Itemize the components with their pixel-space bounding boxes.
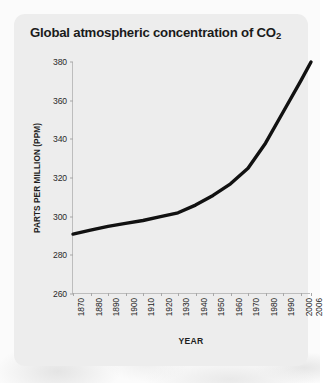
series-polyline [73, 62, 311, 234]
x-tick-mark [248, 293, 249, 296]
x-tick-mark [91, 293, 92, 296]
x-tick-mark [143, 293, 144, 296]
x-tick-label: 1930 [181, 298, 191, 316]
x-tick-mark [266, 293, 267, 296]
chart-card: Global atmospheric concentration of CO2 … [14, 14, 308, 366]
y-tick-mark [70, 178, 73, 179]
x-tick-mark [301, 293, 302, 296]
x-tick-mark [196, 293, 197, 296]
x-tick-label: 1960 [234, 298, 244, 316]
plot-area: 2602803003203403603801870188018901900191… [72, 62, 310, 294]
x-tick-label: 1910 [146, 298, 156, 316]
x-tick-mark [231, 293, 232, 296]
y-tick-label: 320 [53, 173, 67, 183]
x-tick-label: 1880 [94, 298, 104, 316]
y-tick-label: 280 [53, 250, 67, 260]
x-tick-mark [311, 293, 312, 296]
x-tick-label: 1900 [129, 298, 139, 316]
x-tick-label: 1990 [286, 298, 296, 316]
y-tick-label: 340 [53, 134, 67, 144]
x-tick-label: 1970 [251, 298, 261, 316]
y-tick-mark [70, 255, 73, 256]
x-tick-label: 2000 [304, 298, 314, 316]
series-line-chart [73, 62, 311, 294]
x-tick-label: 1950 [216, 298, 226, 316]
x-tick-mark [126, 293, 127, 296]
y-tick-label: 380 [53, 57, 67, 67]
x-tick-label: 1940 [199, 298, 209, 316]
y-tick-mark [70, 216, 73, 217]
y-tick-mark [70, 100, 73, 101]
y-tick-label: 300 [53, 212, 67, 222]
x-axis-title: YEAR [72, 336, 310, 346]
x-tick-label: 1870 [76, 298, 86, 316]
x-tick-mark [283, 293, 284, 296]
x-tick-label: 1980 [269, 298, 279, 316]
y-tick-label: 360 [53, 96, 67, 106]
y-tick-mark [70, 139, 73, 140]
x-tick-mark [213, 293, 214, 296]
x-tick-mark [73, 293, 74, 296]
y-axis-title: PARTS PER MILLION (PPM) [33, 123, 42, 233]
x-tick-mark [178, 293, 179, 296]
y-tick-mark [70, 62, 73, 63]
y-tick-label: 260 [53, 289, 67, 299]
x-tick-label: 1890 [111, 298, 121, 316]
x-tick-label: 1920 [164, 298, 174, 316]
plot-wrapper: PARTS PER MILLION (PPM) 2602803003203403… [14, 14, 308, 366]
x-tick-label: 2006 [314, 298, 324, 316]
x-tick-mark [108, 293, 109, 296]
x-tick-mark [161, 293, 162, 296]
